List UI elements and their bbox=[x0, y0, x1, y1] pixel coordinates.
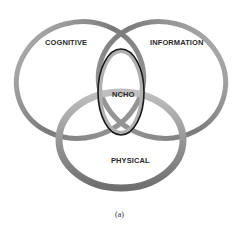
cognitive-label: COGNITIVE bbox=[45, 38, 87, 47]
physical-label: PHYSICAL bbox=[111, 156, 150, 165]
ncho-label: NCHO bbox=[112, 90, 134, 99]
information-label: INFORMATION bbox=[150, 38, 203, 47]
figure-caption: (a) bbox=[115, 210, 124, 219]
venn-diagram bbox=[0, 0, 242, 230]
